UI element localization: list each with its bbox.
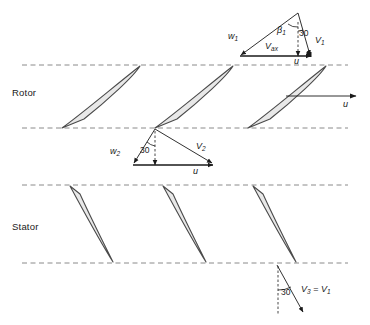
- label-equals-sign: =: [311, 284, 321, 294]
- rotor-blade-row: [62, 66, 326, 128]
- label-w2: w2: [110, 147, 120, 157]
- stator-blade-1: [70, 186, 113, 262]
- rotor-blade-2: [155, 66, 233, 128]
- label-u-rotor: u: [343, 100, 348, 109]
- stator-blade-row: [70, 186, 296, 262]
- label-beta1: β1: [277, 26, 286, 36]
- figure-canvas: Rotor Stator w1 V1 Vax u β1 30 u w2 V2 3…: [0, 0, 370, 325]
- label-angle-30-exit: 30: [140, 146, 149, 155]
- label-beta1-subscript: 1: [282, 29, 286, 36]
- label-u-inlet: u: [294, 57, 299, 66]
- label-v1-subscript: 1: [321, 39, 325, 46]
- label-angle-30-inlet: 30: [299, 29, 308, 38]
- label-vax-subscript: ax: [271, 45, 278, 52]
- label-v2-subscript: 2: [202, 145, 206, 152]
- label-w2-subscript: 2: [117, 150, 121, 157]
- label-u-exit: u: [193, 167, 198, 176]
- stator-blade-3: [253, 186, 296, 262]
- angle-arc-beta1: [288, 24, 298, 27]
- velocity-triangle-diagram: [0, 0, 370, 325]
- stator-stage-label: Stator: [12, 222, 39, 232]
- rotor-stage-label: Rotor: [12, 88, 36, 98]
- label-v1-ref-subscript: 1: [327, 288, 331, 295]
- label-angle-30-stator: 30: [281, 288, 290, 297]
- label-w1: w1: [228, 32, 238, 42]
- label-v2: V2: [196, 142, 206, 152]
- stator-blade-2: [163, 186, 206, 262]
- rotor-blade-3: [248, 66, 326, 128]
- label-v1: V1: [315, 36, 325, 46]
- vertex-marker-inlet: [307, 52, 312, 57]
- rotor-blade-1: [62, 66, 140, 128]
- label-w1-subscript: 1: [235, 35, 239, 42]
- label-v3-equals-v1: V3 = V1: [301, 285, 331, 295]
- label-vax: Vax: [265, 42, 278, 52]
